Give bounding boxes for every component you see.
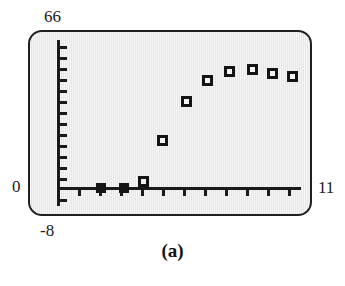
data-point-marker: [138, 176, 149, 187]
x-axis-tick: [246, 190, 249, 196]
y-axis-tick: [60, 46, 67, 49]
y-axis-tick: [60, 101, 67, 104]
x-axis-max-label: 11: [318, 179, 334, 196]
x-axis-min-label: -8: [40, 222, 54, 239]
data-point-marker: [287, 71, 298, 82]
y-axis-tick: [60, 145, 67, 148]
y-axis-tick: [60, 134, 67, 137]
data-point-marker: [96, 183, 106, 193]
y-axis-max-label: 66: [44, 8, 61, 25]
y-axis-tick: [60, 68, 67, 71]
data-point-marker: [224, 66, 235, 77]
figure-panel-a: 66 0 11 -8 (a): [0, 0, 345, 286]
y-axis-tick: [60, 57, 67, 60]
y-axis-tick: [60, 167, 67, 170]
x-axis-tick: [204, 190, 207, 196]
y-axis-tick: [60, 199, 67, 202]
x-axis-tick: [78, 190, 81, 196]
x-axis-tick: [288, 190, 291, 196]
x-axis-tick: [225, 190, 228, 196]
x-axis-tick: [183, 190, 186, 196]
data-point-marker: [202, 75, 213, 86]
y-axis-tick: [60, 178, 67, 181]
data-point-marker: [267, 68, 278, 79]
x-axis-tick: [267, 190, 270, 196]
y-axis-tick: [60, 79, 67, 82]
x-axis-line: [57, 187, 301, 190]
y-axis-tick: [60, 90, 67, 93]
y-axis-tick: [60, 112, 67, 115]
data-point-marker: [157, 135, 168, 146]
y-axis-min-label: 0: [12, 178, 21, 195]
y-axis-tick: [60, 123, 67, 126]
y-axis-tick: [60, 156, 67, 159]
data-point-marker: [181, 96, 192, 107]
x-axis-tick: [162, 190, 165, 196]
data-point-marker: [119, 183, 129, 193]
figure-caption: (a): [0, 240, 345, 262]
data-point-marker: [247, 64, 258, 75]
x-axis-tick: [141, 190, 144, 196]
